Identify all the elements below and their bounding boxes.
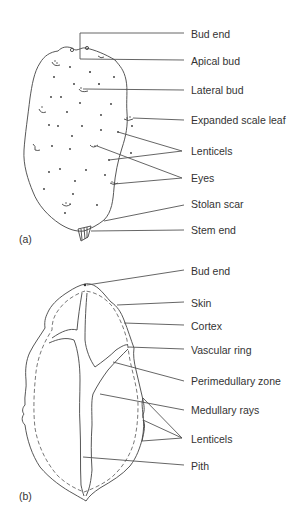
label-stem-end: Stem end <box>191 224 236 236</box>
expanded-scale-leaf-leader <box>133 118 184 120</box>
vascular-ring-leader <box>128 347 184 349</box>
label-lenticels-a: Lenticels <box>191 145 232 157</box>
label-pith: Pith <box>191 460 209 472</box>
label-bud-end-a: Bud end <box>191 28 230 40</box>
eyes-leader <box>97 146 182 184</box>
potato-tuber-diagram: Bud end Apical bud Lateral bud Expanded … <box>0 0 301 513</box>
label-stolan-scar: Stolan scar <box>191 198 244 210</box>
panel-label-b: (b) <box>19 490 32 502</box>
figure-b-section-view: Bud end Skin Cortex Vascular ring Perime… <box>19 265 281 502</box>
label-bud-end-b: Bud end <box>191 265 230 277</box>
label-vascular-ring: Vascular ring <box>191 344 252 356</box>
label-apical-bud: Apical bud <box>191 55 240 67</box>
label-lateral-bud: Lateral bud <box>191 84 244 96</box>
figure-a-external-view: Bud end Apical bud Lateral bud Expanded … <box>19 28 286 245</box>
eye-mark <box>98 56 104 58</box>
bud-end-bracket <box>80 33 184 59</box>
label-cortex: Cortex <box>191 320 223 332</box>
bud-end-leader-b <box>87 270 184 285</box>
apical-bud-mark <box>70 48 73 51</box>
label-expanded-scale-leaf: Expanded scale leaf <box>191 114 286 126</box>
stem-end-mark <box>78 226 91 241</box>
label-medullary-rays: Medullary rays <box>191 404 259 416</box>
eye-marks <box>33 60 133 206</box>
label-eyes: Eyes <box>191 172 214 184</box>
pith-leader <box>83 457 184 465</box>
stolan-scar-leader <box>104 205 184 221</box>
label-lenticels-b: Lenticels <box>191 433 232 445</box>
skin-leader <box>117 302 184 305</box>
bud-end-mark <box>84 284 87 287</box>
cortex-leader <box>124 323 184 325</box>
label-perimedullary-zone: Perimedullary zone <box>191 375 281 387</box>
vascular-ring-dashed <box>34 291 138 492</box>
lenticel-dots <box>43 66 133 214</box>
perimedullary-zone-leader <box>113 362 184 381</box>
stem-end-leader <box>91 230 184 231</box>
skin-outline <box>22 284 144 501</box>
label-skin: Skin <box>191 297 212 309</box>
lenticels-leader-b <box>142 398 182 441</box>
medullary-rays <box>49 293 128 496</box>
apical-bud-leader <box>80 59 184 60</box>
panel-label-a: (a) <box>19 233 32 245</box>
tuber-outline <box>24 47 127 231</box>
lateral-bud-leader <box>85 89 184 90</box>
